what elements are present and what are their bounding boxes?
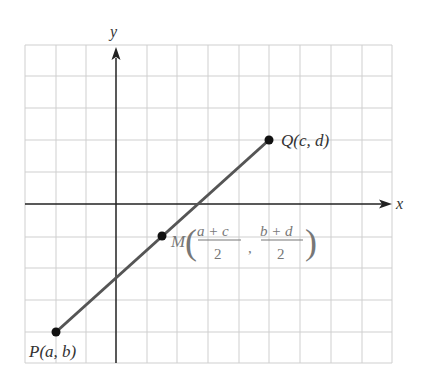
x-numerator: a + c	[197, 223, 229, 239]
left-paren: (	[185, 222, 197, 262]
point-m	[158, 232, 167, 241]
point-q-label: Q(c, d)	[281, 131, 329, 150]
midpoint-diagram: x y P(a, b) Q(c, d) M ( a + c 2 , b + d …	[0, 0, 426, 383]
y-axis-label: y	[108, 23, 118, 41]
midpoint-label: M ( a + c 2 , b + d 2 )	[170, 222, 317, 262]
point-q	[265, 136, 274, 145]
separator: ,	[248, 240, 252, 256]
right-paren: )	[305, 222, 317, 262]
point-p-label: P(a, b)	[28, 342, 77, 361]
x-denominator: 2	[214, 246, 222, 262]
y-axis	[112, 47, 121, 363]
point-p	[52, 328, 61, 337]
point-m-name: M	[170, 232, 186, 251]
x-axis-label: x	[395, 195, 403, 212]
y-denominator: 2	[277, 246, 285, 262]
y-numerator: b + d	[260, 223, 293, 239]
